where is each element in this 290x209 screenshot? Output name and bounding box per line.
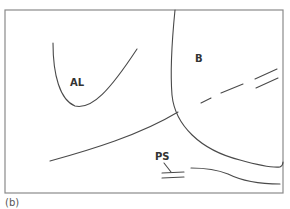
- dashed-line-segment-2: [221, 84, 243, 93]
- dashed-line-segment-1: [201, 98, 211, 103]
- diagram-frame: [5, 10, 283, 193]
- parallel-line: [256, 78, 278, 88]
- ps-double-line-bottom: [162, 177, 184, 178]
- b-curve: [171, 10, 283, 167]
- al-label: AL: [70, 77, 85, 88]
- ps-double-line-top: [162, 172, 184, 173]
- al-curve: [53, 43, 137, 107]
- dashed-line-segment-3: [255, 69, 277, 79]
- ps-label: PS: [155, 151, 170, 162]
- figure-caption: (b): [5, 197, 19, 208]
- ps-leader-line: [164, 163, 171, 172]
- lower-curve: [191, 168, 280, 184]
- b-label: B: [195, 53, 203, 64]
- diagram-canvas: AL B PS (b): [0, 0, 290, 209]
